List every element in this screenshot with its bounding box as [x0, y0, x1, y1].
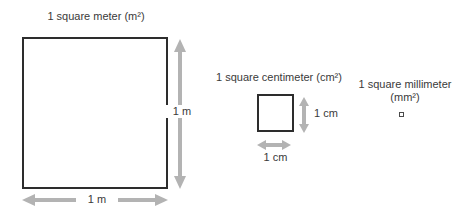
millimeter-square — [399, 112, 404, 117]
centimeter-title: 1 square centimeter (cm²) — [216, 71, 342, 84]
centimeter-square — [257, 94, 294, 132]
meter-square — [22, 37, 168, 189]
diagram-canvas: 1 square meter (m²) 1 m 1 m 1 square cen… — [0, 0, 457, 216]
centimeter-height-arrow-icon — [297, 97, 311, 133]
millimeter-title: 1 square millimeter (mm²) — [356, 78, 454, 104]
meter-width-label: 1 m — [76, 193, 118, 206]
centimeter-width-arrow-icon — [257, 138, 291, 152]
meter-height-label: 1 m — [165, 105, 199, 118]
centimeter-height-label: 1 cm — [314, 107, 338, 120]
centimeter-width-label: 1 cm — [257, 151, 294, 164]
meter-title: 1 square meter (m²) — [24, 10, 168, 23]
